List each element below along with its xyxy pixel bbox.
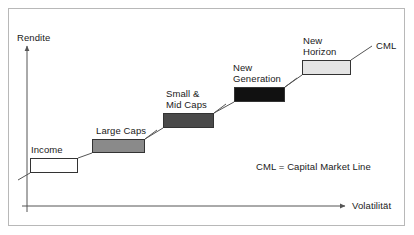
bar-label-small-mid-caps: Small & Mid Caps [166,88,207,110]
bar-label-new-generation-line1: New [233,62,252,73]
bar-label-new-horizon-line2: Horizon [303,46,336,57]
bar-new-horizon [302,60,351,75]
bar-label-new-generation-line2: Generation [233,73,281,84]
x-axis-label: Volatilität [352,200,391,211]
leader-smallmid [214,104,226,113]
bar-small-mid-caps [163,113,214,128]
cml-legend-note: CML = Capital Market Line [256,161,371,172]
leader-largecaps [145,130,157,139]
bar-label-small-mid-caps-line2: Mid Caps [166,99,207,110]
connector-newhorizon-cml [351,46,372,60]
bar-label-large-caps: Large Caps [96,125,146,136]
plot-area: Income Large Caps Small & Mid Caps New G… [0,0,414,235]
bar-label-income: Income [31,144,63,155]
chart-figure: Income Large Caps Small & Mid Caps New G… [0,0,414,235]
bar-income [30,158,78,173]
bar-label-small-mid-caps-line1: Small & [166,88,199,99]
y-axis-label: Rendite [17,32,50,43]
connector-origin-income [18,173,30,180]
leader-newgen [285,78,297,87]
bar-label-new-horizon: New Horizon [303,35,336,57]
bar-label-new-horizon-line1: New [303,35,322,46]
bar-label-new-generation: New Generation [233,62,281,84]
connector-income-largecaps [78,153,92,158]
bar-new-generation [234,87,285,102]
cml-label: CML [376,40,396,51]
bar-large-caps [92,139,145,153]
